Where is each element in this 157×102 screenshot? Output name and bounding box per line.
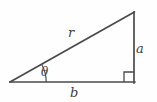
right-angle-marker [124,72,134,82]
angle-theta-label: θ [41,66,48,78]
adjacent-side-label: b [70,86,78,99]
hypotenuse-line [10,12,134,82]
triangle-diagram-svg [0,0,157,102]
right-triangle-figure: r a b θ [0,0,157,102]
opposite-side-label: a [136,42,144,55]
hypotenuse-label: r [68,26,74,39]
